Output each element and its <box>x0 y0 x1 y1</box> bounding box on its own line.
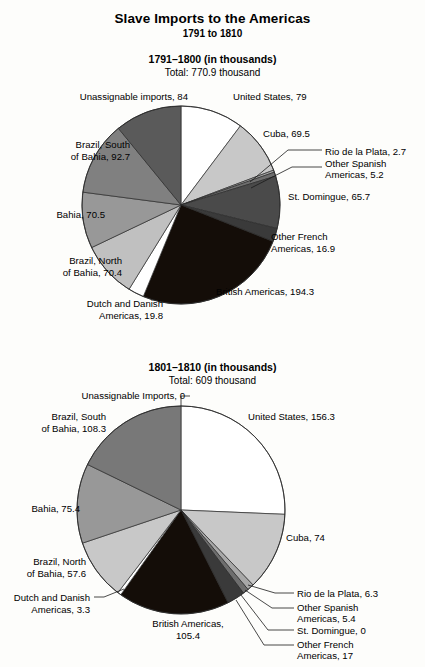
label-brazil-south-2-line1: Brazil, South <box>0 411 106 423</box>
label-british-americas-2-line2: 105.4 <box>108 630 268 642</box>
label-brazil-north-2-line2: of Bahia, 57.6 <box>0 568 86 580</box>
label-unassignable-2: Unassignable Imports, 0 <box>0 390 185 402</box>
label-dutch-danish-2-line2: Americas, 3.3 <box>0 604 90 616</box>
label-brazil-north-2-line1: Brazil, North <box>0 556 86 568</box>
label-other-french-2-line2: Americas, 17 <box>297 650 353 662</box>
chart-page: Slave Imports to the Americas 1791 to 18… <box>0 0 425 667</box>
label-st-domingue-2: St. Domingue, 0 <box>297 625 366 637</box>
label-cuba-2: Cuba, 74 <box>286 532 325 544</box>
label-british-americas-2-line1: British Americas, <box>108 618 268 630</box>
label-brazil-south-2-line2: of Bahia, 108.3 <box>0 423 106 435</box>
label-bahia-2: Bahia, 75.4 <box>0 503 80 515</box>
label-rio-de-la-plata-2: Rio de la Plata, 6.3 <box>297 588 378 600</box>
label-united-states-2: United States, 156.3 <box>248 411 335 423</box>
label-other-spanish-2-line2: Americas, 5.4 <box>297 613 356 625</box>
label-dutch-danish-2-line1: Dutch and Danish <box>0 592 90 604</box>
leader-line <box>248 585 294 593</box>
